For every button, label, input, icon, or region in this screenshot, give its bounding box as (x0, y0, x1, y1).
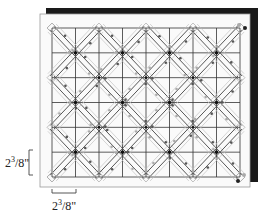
corner-dot-bottom-right-light (242, 173, 246, 177)
vertical-dimension-label: 23/8" (5, 155, 29, 171)
corner-dot-top-right-light (237, 23, 241, 27)
vertical-dimension-bracket (29, 150, 33, 175)
quilt-diagram (0, 0, 261, 214)
horizontal-dimension-label: 23/8" (52, 198, 76, 214)
dim-unit: " (24, 156, 29, 170)
dim-unit: " (71, 199, 76, 213)
corner-dot-top-right (243, 26, 247, 30)
horizontal-dimension-bracket (52, 189, 76, 193)
corner-dot-bottom-right (236, 179, 240, 183)
